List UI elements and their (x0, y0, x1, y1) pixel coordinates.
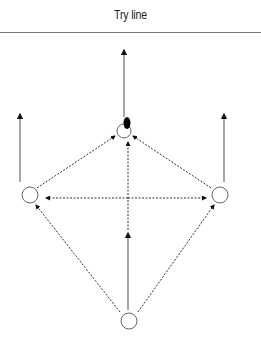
pass-arrow-bottom-to-left (36, 205, 120, 312)
player-bottom (121, 313, 137, 329)
play-diagram (0, 0, 261, 344)
player-left (22, 187, 38, 203)
pass-arrow-left-to-top (37, 136, 115, 188)
ball-icon (124, 117, 131, 129)
players (22, 117, 228, 329)
pass-arrow-right-to-top (133, 136, 211, 188)
player-right (212, 187, 228, 203)
pass-lines (36, 136, 214, 312)
pass-arrow-bottom-to-right (138, 205, 214, 312)
run-lines (20, 50, 224, 310)
